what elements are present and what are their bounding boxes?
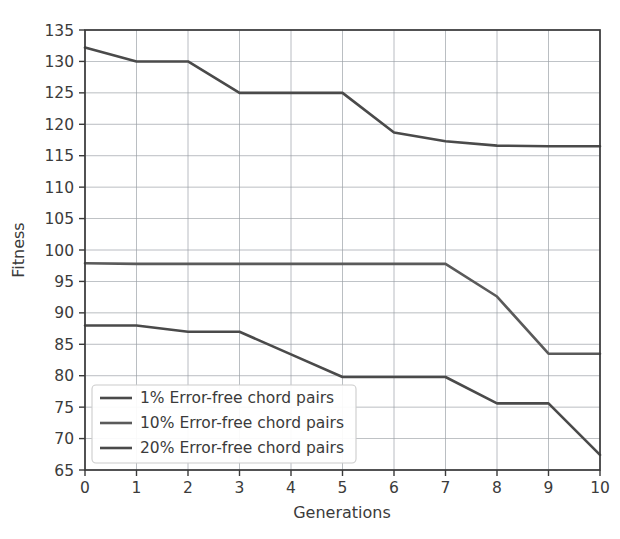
y-tick-label: 75 xyxy=(54,399,74,417)
x-tick-label: 10 xyxy=(590,479,610,497)
y-tick-label: 85 xyxy=(54,336,74,354)
y-tick-label: 110 xyxy=(44,179,74,197)
y-tick-label: 105 xyxy=(44,210,74,228)
y-tick-label: 135 xyxy=(44,22,74,40)
y-tick-label: 90 xyxy=(54,304,74,322)
line-chart: 65707580859095100105110115120125130135 0… xyxy=(0,0,620,539)
x-tick-label: 4 xyxy=(286,479,296,497)
y-tick-label: 120 xyxy=(44,116,74,134)
chart-legend[interactable]: 1% Error-free chord pairs10% Error-free … xyxy=(92,385,356,463)
x-tick-label: 7 xyxy=(441,479,451,497)
y-tick-label: 100 xyxy=(44,242,74,260)
y-tick-label: 130 xyxy=(44,53,74,71)
x-tick-label: 1 xyxy=(132,479,142,497)
x-tick-label: 6 xyxy=(389,479,399,497)
x-tick-label: 5 xyxy=(338,479,348,497)
y-axis-title: Fitness xyxy=(9,222,28,277)
x-tick-label: 9 xyxy=(544,479,554,497)
y-tick-label: 65 xyxy=(54,462,74,480)
y-tick-label: 70 xyxy=(54,430,74,448)
chart-figure: 65707580859095100105110115120125130135 0… xyxy=(0,0,620,539)
x-tick-label: 8 xyxy=(492,479,502,497)
legend-label-0[interactable]: 1% Error-free chord pairs xyxy=(140,389,334,407)
x-axis-title: Generations xyxy=(293,503,391,522)
y-tick-label: 115 xyxy=(44,147,74,165)
x-tick-label: 2 xyxy=(183,479,193,497)
x-tick-label: 0 xyxy=(80,479,90,497)
x-tick-label: 3 xyxy=(235,479,245,497)
y-tick-label: 95 xyxy=(54,273,74,291)
legend-label-2[interactable]: 20% Error-free chord pairs xyxy=(140,439,344,457)
y-tick-label: 125 xyxy=(44,84,74,102)
y-tick-label: 80 xyxy=(54,367,74,385)
legend-label-1[interactable]: 10% Error-free chord pairs xyxy=(140,414,344,432)
